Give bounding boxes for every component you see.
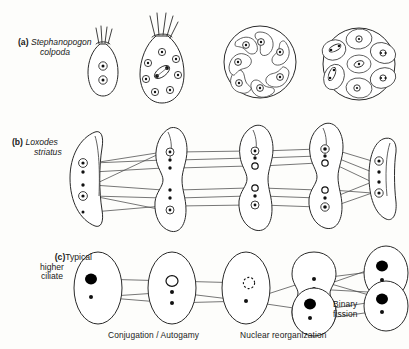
- row-name-c-line1: Typical: [65, 252, 92, 262]
- row-name-b-line2: striatus: [12, 148, 100, 158]
- ciliate-nuclear-cycle-figure: (a) Stephanopogon colpoda (b) Loxodes st…: [0, 0, 409, 349]
- caption-binary-fission-line1: Binary: [333, 299, 357, 309]
- row-c-stage-2-macronucleus-resorbing: [148, 252, 196, 324]
- row-name-a-line1: Stephanopogon: [31, 37, 92, 47]
- row-b-stage-4-loxodes-dividing: [309, 123, 343, 228]
- caption-binary-fission: Binary fission: [333, 300, 357, 319]
- row-b-stage-3-loxodes-dividing: [239, 125, 273, 230]
- caption-binary-fission-line2: fission: [333, 309, 357, 319]
- row-c-stage-3-macronucleus-fragmenting: [222, 252, 270, 324]
- row-label-c: (c)Typical higher ciliate: [12, 253, 92, 282]
- row-label-a: (a) Stephanopogon colpoda: [18, 38, 110, 57]
- row-c-stage-5-new-macronuclei: [364, 246, 408, 331]
- row-a-stage-3-cyst-rosette: [224, 26, 296, 98]
- row-name-b-line1: Loxodes: [25, 137, 58, 147]
- row-label-b: (b) Loxodes striatus: [12, 138, 100, 157]
- row-tag-a: (a): [18, 37, 29, 47]
- row-name-a-line2: colpoda: [18, 48, 110, 58]
- caption-conjugation-autogamy: Conjugation / Autogamy: [108, 330, 199, 340]
- row-name-c-line3: ciliate: [12, 272, 92, 282]
- row-a-stage-1-vegetative-cell: [88, 26, 118, 96]
- row-tag-b: (b): [12, 137, 23, 147]
- row-b-stage-2-loxodes-dividing: [155, 128, 187, 232]
- row-tag-c: (c): [55, 252, 66, 262]
- row-b-stage-5-loxodes-daughter: [369, 138, 396, 219]
- caption-nuclear-reorganization: Nuclear reorganization: [240, 330, 326, 340]
- row-c-stage-4b-lower-dividing-cell: [292, 288, 336, 336]
- row-a-stage-2-multinucleate-cell: [140, 13, 184, 103]
- row-a-stage-4-cyst-oval-daughters: [319, 27, 398, 100]
